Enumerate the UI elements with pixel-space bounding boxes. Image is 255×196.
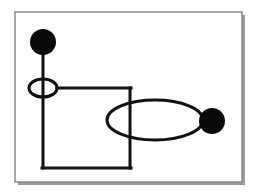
- circuit-diagram: [0, 0, 255, 196]
- right-dot: [199, 108, 225, 134]
- top-dot: [30, 29, 56, 55]
